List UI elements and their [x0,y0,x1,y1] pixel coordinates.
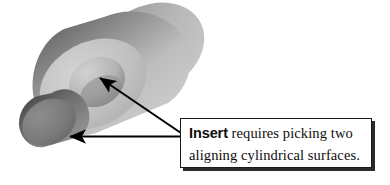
diagram-canvas: Insert requires picking two aligning cyl… [0,0,390,185]
callout-line-1-rest: requires picking two [228,125,353,141]
callout-keyword: Insert [189,125,228,141]
small-cylinder-peg [14,89,89,154]
callout-line-2: aligning cylindrical surfaces. [189,144,364,166]
callout-box: Insert requires picking two aligning cyl… [180,118,372,168]
callout-line-1: Insert requires picking two [189,122,364,144]
